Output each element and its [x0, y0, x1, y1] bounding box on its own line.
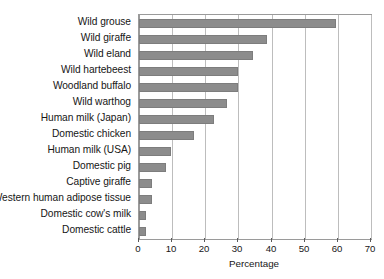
category-label: Wild grouse: [78, 14, 131, 30]
category-label: Wild hartebeest: [61, 62, 131, 78]
bar: [139, 163, 166, 172]
horizontal-bar-chart: Wild grouseWild giraffeWild elandWild ha…: [0, 0, 384, 279]
category-label: Wild eland: [84, 46, 131, 62]
bar: [139, 19, 336, 28]
x-tick-label: 60: [324, 243, 350, 254]
category-label: Woodland buffalo: [53, 78, 131, 94]
x-tick-mark: [171, 238, 172, 242]
category-label: Human milk (USA): [47, 142, 131, 158]
plot-area: [138, 14, 372, 240]
x-axis: 010203040506070: [138, 238, 370, 254]
bar: [139, 67, 238, 76]
bar: [139, 115, 214, 124]
category-label: Domestic pig: [73, 158, 131, 174]
bar: [139, 99, 227, 108]
x-tick-mark: [370, 238, 371, 242]
x-tick-label: 30: [224, 243, 250, 254]
x-tick-label: 50: [291, 243, 317, 254]
x-tick-mark: [271, 238, 272, 242]
x-tick-mark: [204, 238, 205, 242]
category-label: Domestic cow's milk: [41, 206, 131, 222]
bar: [139, 83, 238, 92]
bar: [139, 35, 267, 44]
x-tick-mark: [237, 238, 238, 242]
category-label: Human milk (Japan): [41, 110, 131, 126]
category-axis: Wild grouseWild giraffeWild elandWild ha…: [0, 14, 134, 238]
x-tick-label: 70: [357, 243, 383, 254]
category-label: Western human adipose tissue: [0, 190, 131, 206]
bars-layer: [139, 15, 371, 239]
x-tick-label: 0: [125, 243, 151, 254]
x-tick-mark: [337, 238, 338, 242]
bar: [139, 51, 253, 60]
x-tick-mark: [304, 238, 305, 242]
x-axis-title: Percentage: [138, 258, 370, 269]
gridline: [371, 15, 372, 239]
bar: [139, 179, 152, 188]
x-tick-label: 10: [158, 243, 184, 254]
category-label: Domestic cattle: [62, 222, 131, 238]
x-tick-mark: [138, 238, 139, 242]
category-label: Wild warthog: [73, 94, 131, 110]
bar: [139, 147, 171, 156]
category-label: Captive giraffe: [66, 174, 131, 190]
category-label: Wild giraffe: [81, 30, 131, 46]
bar: [139, 131, 194, 140]
bar: [139, 195, 152, 204]
bar: [139, 227, 146, 236]
bar: [139, 211, 146, 220]
x-tick-label: 40: [258, 243, 284, 254]
x-tick-label: 20: [191, 243, 217, 254]
category-label: Domestic chicken: [52, 126, 131, 142]
